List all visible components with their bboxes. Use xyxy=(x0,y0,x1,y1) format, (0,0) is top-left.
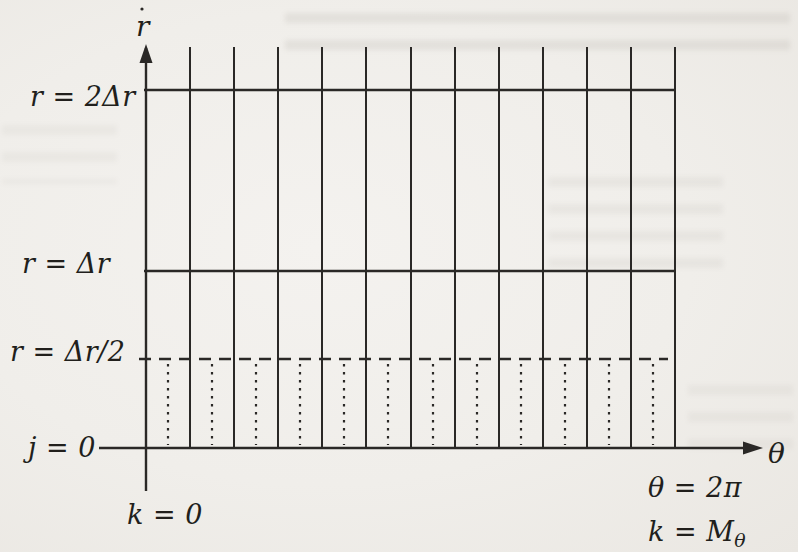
theta-axis-arrowhead xyxy=(743,442,763,455)
k-equals-mtheta-label: k = Mθ xyxy=(648,518,746,545)
r-equals-dr-label: r = Δr xyxy=(22,250,110,277)
r-axis-arrowhead xyxy=(140,44,153,63)
k-equals-mtheta-main: k = M xyxy=(648,516,734,547)
k-equals-mtheta-subscript: θ xyxy=(734,529,746,551)
r-equals-2dr-label: r = 2Δr xyxy=(30,83,136,110)
r-axis-label: r xyxy=(136,13,150,41)
theta-axis-label: θ xyxy=(768,440,785,468)
scanned-textbook-page: r θ r = 2Δr r = Δr r = Δr/2 j = 0 k = 0 … xyxy=(0,0,798,552)
k-equals-zero-label: k = 0 xyxy=(127,501,203,528)
r-equals-half-dr-label: r = Δr/2 xyxy=(10,338,125,365)
theta-equals-2pi-label: θ = 2π xyxy=(648,474,742,501)
j-equals-zero-label: j = 0 xyxy=(28,434,96,461)
